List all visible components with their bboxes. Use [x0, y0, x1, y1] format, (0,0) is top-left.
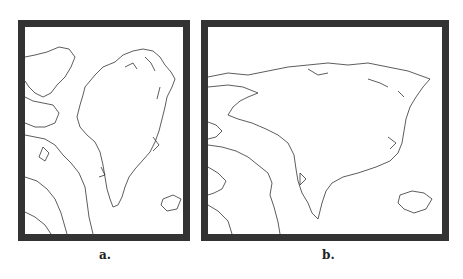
panel-label-b: b. — [322, 248, 335, 262]
panel-label-a: a. — [99, 248, 111, 262]
map-panel-a — [18, 20, 190, 241]
coastline-map-b — [208, 27, 442, 234]
map-panel-b — [201, 20, 449, 241]
coastline-map-a — [25, 27, 183, 234]
